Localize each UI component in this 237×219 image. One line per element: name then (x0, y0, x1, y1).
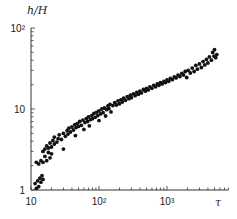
data-point (130, 96, 134, 100)
data-point (192, 70, 196, 74)
data-point (194, 64, 198, 68)
data-point (213, 48, 217, 52)
y-tick-label: 10 (14, 104, 26, 115)
data-point (43, 155, 47, 159)
data-point (133, 94, 137, 98)
data-point (196, 67, 200, 71)
y-tick-label: 10² (11, 23, 26, 34)
x-axis-label: τ (215, 196, 222, 209)
data-point (48, 141, 52, 145)
data-point (48, 156, 52, 160)
data-point (57, 133, 61, 137)
data-point (201, 60, 205, 64)
data-point (109, 110, 113, 114)
data-point (79, 123, 83, 127)
data-points (33, 48, 219, 190)
data-point (206, 61, 210, 65)
data-point (190, 66, 194, 70)
data-point (101, 111, 105, 115)
data-point (37, 185, 41, 189)
data-point (178, 75, 182, 79)
data-point (120, 100, 124, 104)
y-tick-label: 1 (19, 185, 25, 196)
x-tick-label: 10² (92, 196, 107, 207)
data-point (43, 147, 47, 151)
data-point (40, 174, 44, 178)
data-point (104, 114, 108, 118)
data-point (205, 58, 209, 62)
data-point (188, 71, 192, 75)
data-point (185, 76, 189, 80)
data-point (37, 162, 41, 166)
data-point (107, 107, 111, 111)
x-tick-label: 10 (25, 196, 37, 207)
data-point (56, 137, 60, 141)
data-point (140, 91, 144, 95)
data-point (200, 66, 204, 70)
y-axis-label: h/H (27, 4, 48, 17)
data-point (60, 138, 64, 142)
data-point (97, 119, 101, 123)
data-point (124, 98, 128, 102)
x-tick-label: 10³ (160, 196, 175, 207)
data-point (74, 134, 78, 138)
data-point (182, 73, 186, 77)
data-point (82, 127, 86, 131)
data-point (51, 139, 55, 143)
data-point (41, 178, 45, 182)
axes (31, 28, 228, 190)
data-point (62, 147, 66, 151)
data-point (50, 145, 54, 149)
data-point (41, 160, 45, 164)
data-point (87, 124, 91, 128)
axis-ticks (31, 28, 228, 190)
data-point (55, 140, 59, 144)
data-point (215, 53, 219, 57)
data-point (45, 159, 49, 163)
data-point (208, 55, 212, 59)
data-point (52, 135, 56, 139)
scatter-plot: 1010²10³11010² h/H τ (0, 0, 237, 219)
data-point (198, 62, 202, 66)
data-point (50, 152, 54, 156)
data-point (210, 58, 214, 62)
